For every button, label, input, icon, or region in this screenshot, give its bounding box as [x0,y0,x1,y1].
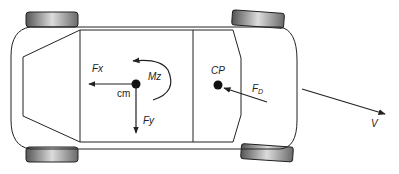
fd-label: FD [252,83,263,95]
fy-label: Fy [143,115,155,126]
cp-label: CP [211,65,225,76]
velocity-v-arrow [302,89,385,114]
wheel-rear-right [241,143,294,162]
wheel-front-right [232,10,285,29]
cm-label: cm [117,88,130,99]
vehicle-diagram: Fx Fy cm Mz CP FD V [0,0,399,174]
fx-label: Fx [92,63,104,74]
center-of-pressure-dot [214,81,223,90]
wheel-front-left [26,12,78,27]
mz-label: Mz [148,71,161,82]
v-label: V [371,118,379,129]
